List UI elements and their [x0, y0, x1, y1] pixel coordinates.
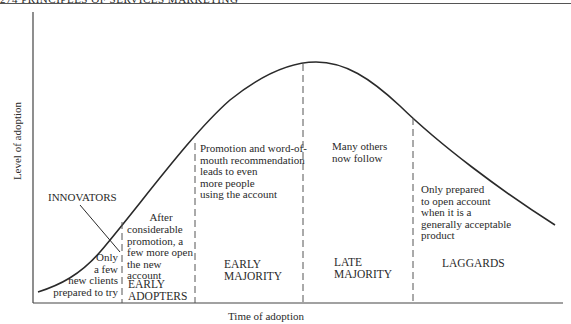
x-axis-label: Time of adoption [228, 310, 304, 322]
early-adopters-description-top: After [124, 212, 198, 224]
laggards-label: LAGGARDS [442, 257, 505, 269]
late-majority-description: Many others now follow [332, 141, 387, 164]
early-adopters-description: considerable promotion, a few more open … [127, 224, 193, 282]
early-adopters-label: EARLY ADOPTERS [128, 278, 187, 302]
innovators-description: Only a few new clients prepared to try [40, 252, 118, 298]
innovators-pointer [80, 205, 120, 252]
late-majority-label: LATE MAJORITY [334, 256, 392, 280]
laggards-description: Only prepared to open account when it is… [421, 184, 511, 242]
y-axis-label: Level of adoption [11, 96, 23, 186]
early-majority-label: EARLY MAJORITY [224, 258, 282, 282]
innovators-label: INNOVATORS [48, 192, 117, 204]
early-majority-description: Promotion and word-of- mouth recommendat… [200, 143, 307, 201]
